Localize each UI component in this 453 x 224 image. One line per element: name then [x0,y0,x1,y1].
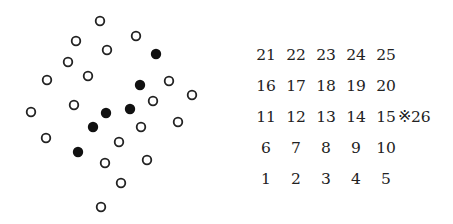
filled-circle [135,80,145,90]
filled-circle [125,104,135,114]
cell: 15 [372,108,400,126]
open-circle [42,134,51,143]
cell: 23 [312,46,340,64]
cell: 8 [312,139,340,157]
open-circle [188,91,197,100]
cell: 17 [282,77,310,95]
open-circle [72,37,81,46]
open-circle [101,159,110,168]
cell: 7 [282,139,310,157]
open-circle [97,203,106,212]
filled-circle [88,122,98,132]
open-circle [64,58,73,67]
filled-circle [101,108,111,118]
open-circle [27,108,36,117]
open-circle [174,118,183,127]
open-circle [165,77,174,86]
cell: 2 [282,170,310,188]
open-circle [70,101,79,110]
cell: 16 [252,77,280,95]
filled-circle [151,49,161,59]
filled-circle [73,147,83,157]
cell: 25 [372,46,400,64]
open-circle [115,138,124,147]
open-circle [143,156,152,165]
cell: 20 [372,77,400,95]
dot-diagram [0,0,230,224]
cell: 9 [342,139,370,157]
cell: 14 [342,108,370,126]
open-circle [43,76,52,85]
cell: 13 [312,108,340,126]
cell: 6 [252,139,280,157]
open-circle [149,97,158,106]
cell: 4 [342,170,370,188]
cell: 24 [342,46,370,64]
cell: 18 [312,77,340,95]
open-circle [117,179,126,188]
cell: 12 [282,108,310,126]
cell: 5 [372,170,400,188]
cell: 22 [282,46,310,64]
cell: 10 [372,139,400,157]
open-circle [137,123,146,132]
extra-cell: ※26 [398,108,442,126]
cell: 19 [342,77,370,95]
open-circle [96,17,105,26]
open-circle [84,72,93,81]
cell: 3 [312,170,340,188]
open-circle [103,46,112,55]
open-circle [132,32,141,41]
cell: 1 [252,170,280,188]
cell: 21 [252,46,280,64]
cell: 11 [252,108,280,126]
